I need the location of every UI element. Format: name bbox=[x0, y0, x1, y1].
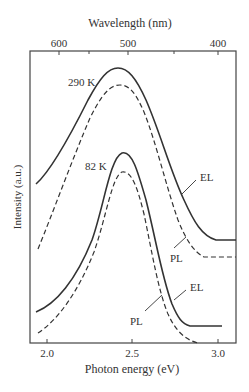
label-82k: 82 K bbox=[85, 160, 107, 172]
top-tick-label: 600 bbox=[51, 37, 68, 49]
leader-82k-pl bbox=[145, 295, 162, 311]
label-290k-el: EL bbox=[200, 171, 214, 183]
leader-290k-el bbox=[182, 180, 196, 194]
curve-82k-el bbox=[36, 153, 222, 326]
label-82k-pl: PL bbox=[130, 315, 143, 327]
label-290k-pl: PL bbox=[170, 252, 183, 264]
bottom-tick-label: 2.5 bbox=[125, 347, 139, 359]
plot-frame bbox=[30, 51, 236, 343]
bottom-tick-label: 3.0 bbox=[211, 347, 225, 359]
top-tick-label: 500 bbox=[120, 37, 137, 49]
top-tick-label: 400 bbox=[210, 37, 227, 49]
bottom-axis-title: Photon energy (eV) bbox=[85, 362, 179, 376]
leader-82k-el bbox=[174, 290, 186, 300]
label-290k: 290 K bbox=[68, 76, 95, 88]
curve-290k-el bbox=[36, 68, 236, 240]
leader-290k-pl bbox=[174, 237, 186, 248]
bottom-tick-label: 2.0 bbox=[40, 347, 54, 359]
top-axis-title: Wavelength (nm) bbox=[88, 16, 171, 30]
label-82k-el: EL bbox=[190, 281, 204, 293]
emission-spectra-chart: Wavelength (nm) 600 500 400 2.0 2.5 3.0 … bbox=[0, 0, 249, 392]
y-axis-title: Intensity (a.u.) bbox=[11, 164, 24, 229]
